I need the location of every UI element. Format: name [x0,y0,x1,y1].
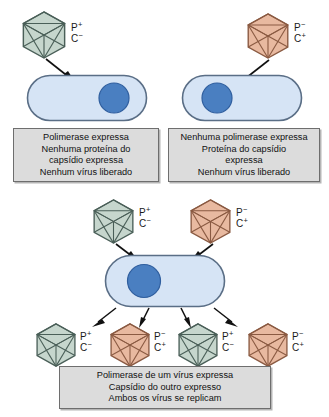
virus-particle-green-left [20,11,68,59]
virus-label-p: P [80,331,87,342]
virus-particle-progeny-1 [34,323,78,367]
virus-label-green-left: P+ C− [71,22,83,44]
virus-particle-orange-coinfect [188,199,233,244]
caption-line: Nenhum vírus liberado [171,167,317,179]
virus-label-c-sign: − [146,216,151,225]
caption-right-panel: Nenhuma polimerase expressa Proteína do … [168,128,320,182]
virus-label-c-sign: + [299,340,304,349]
host-cell-right [181,74,303,122]
caption-line: Nenhuma polimerase expressa [171,132,317,144]
virus-label-p-sign: + [87,329,92,338]
virus-label-orange-coinfect: P− C+ [236,207,248,229]
virus-label-p: P [292,331,299,342]
virus-particle-progeny-2 [108,323,152,367]
virus-label-progeny-2: P− C+ [154,331,166,353]
caption-line: Ambos os vírus se replicam [62,393,268,405]
virus-particle-progeny-3 [176,323,220,367]
virus-particle-orange-right [245,13,291,59]
virus-particle-green-coinfect [91,199,136,244]
virus-label-p: P [222,331,229,342]
diagram-canvas: P+ C− Polimerase expressa Nenhuma proteí… [0,0,329,417]
host-cell-left [26,74,148,122]
virus-label-p: P [294,22,301,33]
virus-label-c-sign: + [301,31,306,40]
caption-line: capsídio expressa [16,155,156,167]
caption-line: Nenhum vírus liberado [16,167,156,179]
virus-label-p-sign: + [78,20,83,29]
virus-label-p: P [139,207,146,218]
virus-label-green-coinfect: P+ C− [139,207,151,229]
virus-label-c-sign: − [78,31,83,40]
virus-label-orange-right: P− C+ [294,22,306,44]
virus-label-c-sign: + [161,340,166,349]
virus-label-c-sign: − [229,340,234,349]
virus-label-progeny-3: P+ C− [222,331,234,353]
virus-label-p: P [154,331,161,342]
caption-line: Polimerase de um vírus expressa [62,370,268,382]
caption-line: Capsídio do outro expresso [62,382,268,394]
caption-left-panel: Polimerase expressa Nenhuma proteína do … [13,128,159,182]
caption-line: expressa [171,155,317,167]
virus-label-c-sign: + [243,216,248,225]
virus-label-p-sign: + [229,329,234,338]
virus-label-p-sign: − [243,205,248,214]
virus-label-p: P [71,22,78,33]
caption-line: Proteína do capsídio [171,144,317,156]
virus-label-progeny-1: P+ C− [80,331,92,353]
caption-line: Polimerase expressa [16,132,156,144]
virus-label-p: P [236,207,243,218]
virus-label-p-sign: − [299,329,304,338]
caption-line: Nenhuma proteína do [16,144,156,156]
virus-label-p-sign: + [146,205,151,214]
virus-label-p-sign: − [301,20,306,29]
virus-label-p-sign: − [161,329,166,338]
caption-bottom-panel: Polimerase de um vírus expressa Capsídio… [59,366,271,409]
virus-label-progeny-4: P− C+ [292,331,304,353]
virus-label-c-sign: − [87,340,92,349]
virus-particle-progeny-4 [246,323,290,367]
host-cell-coinfected [104,254,226,308]
